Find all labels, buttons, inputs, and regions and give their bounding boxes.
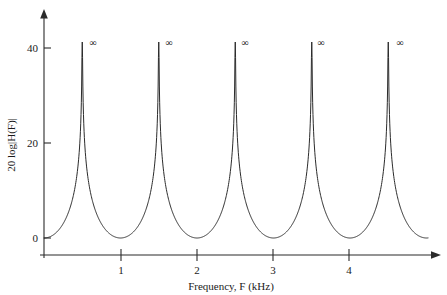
y-tick-label-40: 40 xyxy=(27,42,39,54)
chart-figure: 40 20 0 20 log|H(F)| 1 2 3 4 Frequency, … xyxy=(0,0,447,295)
y-tick-label-0: 0 xyxy=(33,232,39,244)
y-tick-label-20: 20 xyxy=(27,137,39,149)
y-axis-title: 20 log|H(F)| xyxy=(5,118,18,172)
magnitude-response-chart: 40 20 0 20 log|H(F)| 1 2 3 4 Frequency, … xyxy=(0,0,447,295)
x-tick-label-3: 3 xyxy=(270,264,276,276)
peak-infinity-label-2: ∞ xyxy=(165,37,172,48)
peak-infinity-label-5: ∞ xyxy=(396,37,403,48)
peak-infinity-label-1: ∞ xyxy=(89,37,96,48)
x-axis-title: Frequency, F (kHz) xyxy=(188,280,274,293)
x-tick-label-2: 2 xyxy=(194,264,200,276)
x-tick-label-4: 4 xyxy=(346,264,352,276)
x-tick-label-1: 1 xyxy=(118,264,124,276)
chart-background xyxy=(0,0,447,295)
peak-infinity-label-4: ∞ xyxy=(317,37,324,48)
peak-infinity-label-3: ∞ xyxy=(241,37,248,48)
